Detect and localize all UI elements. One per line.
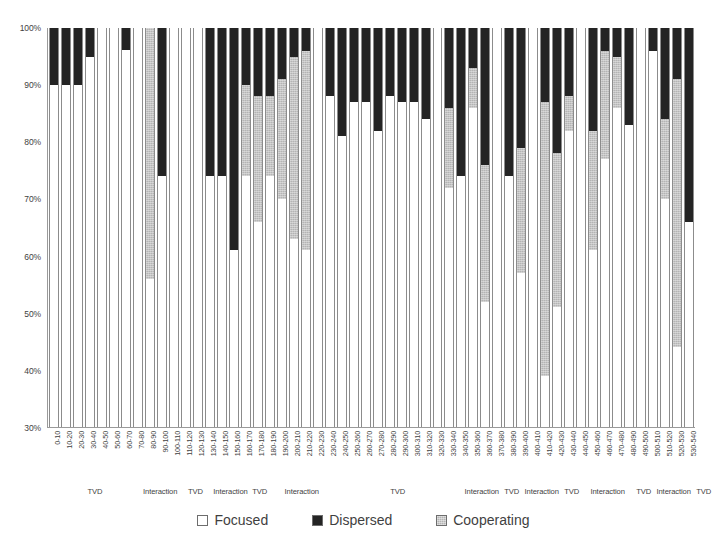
stacked-bar[interactable] [516,28,526,427]
segment-focused [637,28,645,427]
stacked-bar[interactable] [588,28,598,427]
stacked-bar[interactable] [409,28,419,427]
bar-slot [264,28,276,427]
stacked-bar[interactable] [672,28,682,427]
segment-dispersed [362,28,370,102]
stacked-bar[interactable] [456,28,466,427]
stacked-bar[interactable] [373,28,383,427]
bar-slot [527,28,539,427]
stacked-bar[interactable] [337,28,347,427]
x-label-slot: 220-230 [311,430,323,482]
segment-cooperating [146,28,154,279]
stacked-bar[interactable] [468,28,478,427]
stacked-bar[interactable] [277,28,287,427]
stacked-bar[interactable] [504,28,514,427]
stacked-bar[interactable] [85,28,95,427]
stacked-bar[interactable] [241,28,251,427]
stacked-bar[interactable] [181,28,191,427]
bar-slot [72,28,84,427]
stacked-bar[interactable] [600,28,610,427]
segment-cooperating [445,108,453,188]
stacked-bar[interactable] [433,28,443,427]
stacked-bar[interactable] [145,28,155,427]
segment-cooperating [673,79,681,347]
stacked-bar[interactable] [157,28,167,427]
segment-dispersed [481,28,489,165]
segment-focused [553,307,561,427]
segment-focused [541,376,549,427]
stacked-bar[interactable] [265,28,275,427]
segment-cooperating [254,96,262,221]
stacked-bar[interactable] [49,28,59,427]
stacked-bar[interactable] [73,28,83,427]
bar-slot [671,28,683,427]
segment-cooperating [565,96,573,130]
stacked-bar[interactable] [325,28,335,427]
legend-item-focused[interactable]: Focused [197,513,268,527]
stacked-bar[interactable] [313,28,323,427]
stacked-bar[interactable] [109,28,119,427]
x-label-slot: 440-450 [575,430,587,482]
group-band-label: Interaction [213,484,247,498]
y-tick-label: 90% [24,80,41,90]
stacked-bar[interactable] [552,28,562,427]
stacked-bar[interactable] [528,28,538,427]
stacked-bar[interactable] [444,28,454,427]
stacked-bar[interactable] [648,28,658,427]
stacked-bar[interactable] [133,28,143,427]
stacked-bar[interactable] [361,28,371,427]
stacked-bar[interactable] [193,28,203,427]
legend-item-cooperating[interactable]: Cooperating [436,513,529,527]
segment-focused [589,250,597,427]
stacked-bar[interactable] [492,28,502,427]
segment-dispersed [278,28,286,79]
stacked-bar[interactable] [169,28,179,427]
bar-slot [683,28,695,427]
segment-focused [326,96,334,427]
bar-slot [587,28,599,427]
bar-slot [599,28,611,427]
stacked-bar[interactable] [205,28,215,427]
segment-focused [62,85,70,427]
stacked-bar[interactable] [289,28,299,427]
stacked-bar[interactable] [660,28,670,427]
stacked-bar[interactable] [397,28,407,427]
y-tick-label: 100% [20,23,41,33]
legend-item-dispersed[interactable]: Dispersed [312,513,392,527]
legend-label: Dispersed [329,513,392,527]
stacked-bar[interactable] [349,28,359,427]
segment-dispersed [422,28,430,119]
stacked-bar[interactable] [421,28,431,427]
stacked-bar[interactable] [624,28,634,427]
group-band-label: Interaction [272,484,332,498]
segment-focused [338,136,346,427]
stacked-bar[interactable] [301,28,311,427]
stacked-bar[interactable] [480,28,490,427]
stacked-bar[interactable] [385,28,395,427]
segment-dispersed [565,28,573,96]
stacked-bar[interactable] [684,28,694,427]
stacked-bar[interactable] [564,28,574,427]
stacked-bar[interactable] [253,28,263,427]
group-band-label: Interaction [524,484,560,498]
stacked-bar[interactable] [612,28,622,427]
stacked-bar[interactable] [217,28,227,427]
stacked-bar[interactable] [97,28,107,427]
x-label-slot: 280-290 [383,430,395,482]
stacked-bar[interactable] [229,28,239,427]
segment-focused [122,50,130,427]
stacked-bar[interactable] [576,28,586,427]
stacked-bar[interactable] [121,28,131,427]
bar-slot [623,28,635,427]
segment-focused [278,199,286,427]
x-label-slot: 190-200 [275,430,287,482]
bar-slot [96,28,108,427]
segment-focused [469,108,477,427]
stacked-bar[interactable] [636,28,646,427]
x-label-slot: 30-40 [83,430,95,482]
bar-slot [60,28,72,427]
bar-slot [647,28,659,427]
segment-focused [158,176,166,427]
stacked-bar[interactable] [540,28,550,427]
stacked-bar[interactable] [61,28,71,427]
